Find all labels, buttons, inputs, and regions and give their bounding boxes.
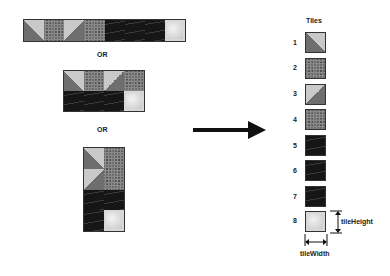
tile-2: [104, 148, 124, 169]
tile-6: [125, 20, 145, 41]
tile-4: [305, 109, 326, 130]
tile-1: [84, 148, 104, 169]
tile-3: [64, 20, 84, 41]
tile-8: [104, 210, 124, 231]
tile-1: [24, 20, 44, 41]
tile-3: [104, 71, 124, 91]
tile-4: [124, 71, 144, 91]
tile-width-label: tileWidth: [300, 250, 330, 257]
tile-2: [305, 58, 326, 79]
tile-4: [104, 169, 124, 190]
tileset-grid-2x4: [83, 147, 125, 232]
tiles-title: Tiles: [306, 17, 322, 24]
tile-number-5: 5: [293, 142, 297, 149]
tileset-strip-horizontal: [23, 19, 186, 42]
tile-3: [84, 169, 104, 190]
tileset-grid-4x2: [63, 70, 145, 112]
tile-8: [305, 211, 326, 232]
tile-5: [84, 190, 104, 211]
tile-number-8: 8: [293, 217, 297, 224]
tile-2: [44, 20, 64, 41]
tile-number-6: 6: [293, 167, 297, 174]
tile-number-1: 1: [293, 39, 297, 46]
tile-4: [84, 20, 104, 41]
tile-7: [305, 186, 326, 207]
tile-number-2: 2: [293, 64, 297, 71]
tile-6: [305, 160, 326, 181]
tile-1: [64, 71, 84, 91]
tile-6: [104, 190, 124, 211]
tile-1: [305, 32, 326, 53]
tile-width-dimension-icon: [303, 234, 329, 248]
arrow-right-icon: [190, 117, 270, 143]
tile-number-4: 4: [293, 116, 297, 123]
tile-3: [305, 84, 326, 105]
tile-8: [124, 91, 144, 111]
or-label-2: OR: [97, 126, 108, 133]
tile-number-7: 7: [293, 193, 297, 200]
tile-8: [165, 20, 185, 41]
or-label-1: OR: [97, 51, 108, 58]
tile-2: [84, 71, 104, 91]
tile-5: [105, 20, 125, 41]
tile-7: [84, 210, 104, 231]
tile-5: [305, 135, 326, 156]
tile-5: [64, 91, 84, 111]
tile-7: [145, 20, 165, 41]
tile-7: [104, 91, 124, 111]
tile-number-3: 3: [293, 90, 297, 97]
tile-6: [84, 91, 104, 111]
tile-height-label: tileHeight: [341, 218, 373, 225]
